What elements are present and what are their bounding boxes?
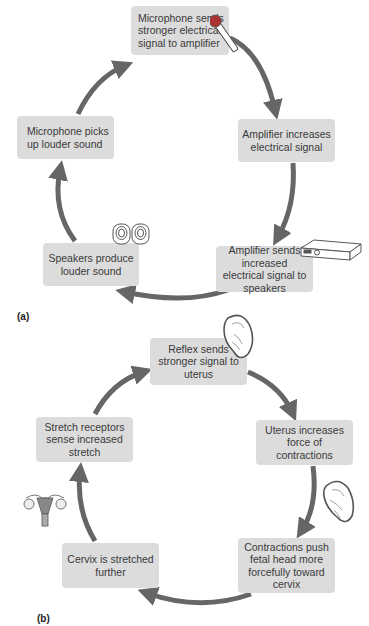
panel-label-a: (a)	[17, 311, 29, 322]
step-text: Microphone picks up louder sound	[27, 125, 110, 150]
cycle-arrows	[0, 0, 369, 626]
uterus-anatomy-icon	[22, 490, 68, 530]
arrow-a-3	[125, 290, 228, 298]
step-text: Cervix is stretched further	[66, 553, 155, 578]
step-box-amplifier-increases: Amplifier increases electrical signal	[238, 119, 335, 162]
arrow-a-4	[58, 170, 75, 241]
fetus-in-uterus-icon	[220, 312, 256, 362]
step-box-speakers-produce: Speakers produce louder sound	[43, 243, 139, 286]
arrow-a-2	[278, 163, 293, 237]
step-text: Uterus increases force of contractions	[260, 424, 349, 462]
arrow-b-5	[95, 372, 143, 414]
step-box-cervix-stretched: Cervix is stretched further	[62, 543, 159, 588]
speakers-icon	[111, 222, 153, 246]
step-text: Stretch receptors sense increased stretc…	[40, 421, 129, 459]
step-box-contractions-push: Contractions push fetal head more forcef…	[238, 538, 335, 593]
step-text: Amplifier sends increased electrical sig…	[220, 244, 309, 294]
arrow-a-5	[78, 66, 124, 114]
arrow-b-1	[248, 372, 292, 412]
fetus-in-uterus-icon	[320, 478, 358, 528]
arrow-b-2	[302, 466, 314, 530]
step-text: Contractions push fetal head more forcef…	[242, 541, 331, 591]
step-text: Amplifier increases electrical signal	[242, 128, 331, 153]
step-box-uterus-increases: Uterus increases force of contractions	[256, 420, 353, 465]
microphone-icon	[210, 10, 240, 60]
panel-label-b: (b)	[37, 613, 50, 624]
step-text: Speakers produce louder sound	[47, 252, 135, 277]
step-box-mic-picks-up: Microphone picks up louder sound	[17, 116, 114, 159]
arrow-b-3	[147, 593, 251, 603]
amplifier-icon	[298, 238, 364, 262]
arrow-b-4	[79, 472, 95, 541]
step-box-stretch-receptors: Stretch receptors sense increased stretc…	[36, 417, 133, 462]
